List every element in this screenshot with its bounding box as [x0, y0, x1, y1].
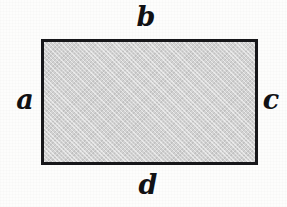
rectangle-shape: [41, 39, 258, 165]
side-label-bottom: d: [133, 171, 163, 198]
rectangle-fill-texture: [44, 42, 255, 162]
side-label-right: c: [258, 86, 284, 113]
side-label-left: a: [10, 86, 40, 113]
side-label-top: b: [131, 3, 161, 30]
diagram-canvas: b a c d: [0, 0, 287, 207]
